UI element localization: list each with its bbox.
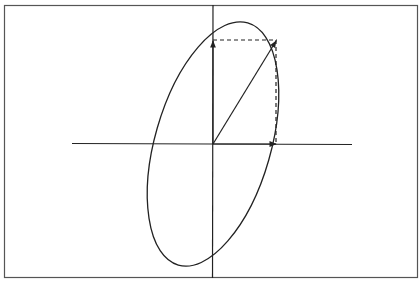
frame	[5, 6, 418, 278]
polarization-diagram	[0, 0, 420, 281]
